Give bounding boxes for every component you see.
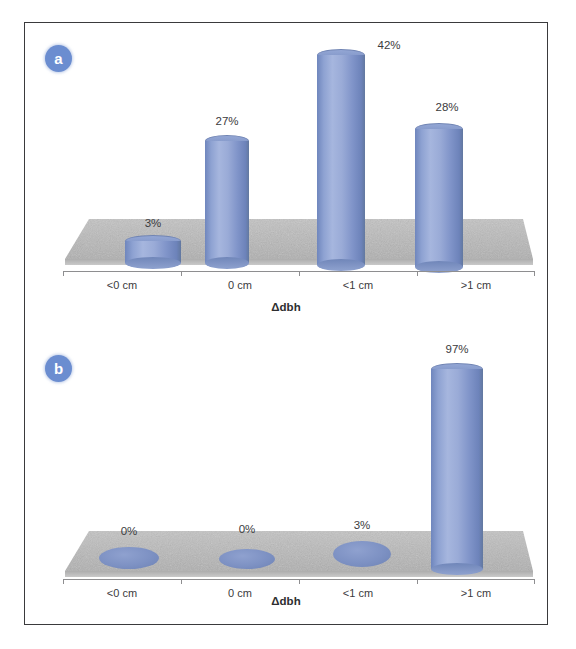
x-axis-tick xyxy=(417,271,418,276)
bar-disc-b-0 xyxy=(99,547,159,569)
value-label-a-0: 3% xyxy=(125,217,181,229)
bar-cylinder-a-2 xyxy=(317,49,365,271)
x-axis-tick xyxy=(417,579,418,584)
x-axis-tick xyxy=(534,579,535,584)
cylinder-bottom-cap xyxy=(205,257,249,269)
x-axis-tick xyxy=(63,271,64,276)
x-axis-tick xyxy=(181,579,182,584)
x-axis-tick xyxy=(299,579,300,584)
x-axis-category-label-a-1: 0 cm xyxy=(181,279,299,291)
bar-disc-b-1 xyxy=(219,549,275,569)
value-label-b-1: 0% xyxy=(217,523,277,535)
x-axis-title-a: Δdbh xyxy=(25,301,547,313)
plot-stage-b: 0% 0% 3% 97% <0 cm 0 cm <1 cm >1 cm xyxy=(25,325,547,625)
x-axis-tick xyxy=(63,579,64,584)
cylinder-body xyxy=(431,369,483,569)
value-label-b-3: 97% xyxy=(431,343,483,355)
value-label-a-2: 42% xyxy=(365,39,413,51)
x-axis-tick xyxy=(299,271,300,276)
cylinder-bottom-cap xyxy=(431,563,483,575)
x-axis-title-b: Δdbh xyxy=(25,595,547,607)
cylinder-bottom-cap xyxy=(317,259,365,271)
cylinder-body xyxy=(317,55,365,265)
x-axis-category-label-a-0: <0 cm xyxy=(63,279,181,291)
value-label-b-0: 0% xyxy=(99,525,159,537)
x-axis-tick xyxy=(181,271,182,276)
platform-deck-a xyxy=(25,219,549,287)
plot-stage-a: 3% 27% 42% 28% xyxy=(25,23,547,325)
x-axis-category-label-a-2: <1 cm xyxy=(299,279,417,291)
figure-frame: a xyxy=(24,22,548,625)
cylinder-bottom-cap xyxy=(125,257,181,269)
value-label-a-3: 28% xyxy=(423,101,471,113)
bar-cylinder-b-3 xyxy=(431,363,483,575)
bar-cylinder-a-1 xyxy=(205,135,249,269)
bar-cylinder-a-3 xyxy=(415,123,463,273)
value-label-b-2: 3% xyxy=(333,519,391,531)
cylinder-body xyxy=(415,129,463,267)
x-axis-category-label-a-3: >1 cm xyxy=(417,279,535,291)
cylinder-body xyxy=(205,141,249,263)
value-label-a-1: 27% xyxy=(203,115,251,127)
bar-cylinder-a-0 xyxy=(125,235,181,269)
chart-panel-b: b xyxy=(25,325,547,625)
chart-panel-a: a xyxy=(25,23,547,325)
x-axis-tick xyxy=(534,271,535,276)
bar-disc-b-2 xyxy=(333,541,391,567)
